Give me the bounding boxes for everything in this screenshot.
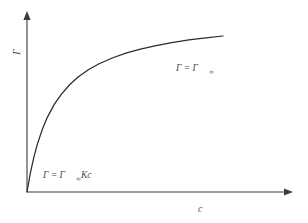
figure-container: Γ c Γ = Γ ∞ Γ = Γ ∞ Kc xyxy=(0,0,308,223)
plateau-annotation-subscript: ∞ xyxy=(209,68,214,76)
isotherm-curve xyxy=(27,36,223,192)
x-axis-label: c xyxy=(198,204,203,214)
y-axis-arrow-icon xyxy=(23,11,30,20)
y-axis-label: Γ xyxy=(12,49,22,56)
x-axis-arrow-icon xyxy=(284,188,293,195)
plateau-annotation-base: Γ = Γ xyxy=(175,63,199,73)
y-axis-label-group: Γ xyxy=(12,49,22,56)
plateau-annotation: Γ = Γ ∞ xyxy=(175,63,214,76)
linear-limit-annotation-base: Γ = Γ xyxy=(42,170,66,180)
linear-limit-annotation-tail: Kc xyxy=(80,170,92,180)
langmuir-isotherm-chart: Γ c Γ = Γ ∞ Γ = Γ ∞ Kc xyxy=(0,0,308,223)
linear-limit-annotation: Γ = Γ ∞ Kc xyxy=(42,170,92,183)
